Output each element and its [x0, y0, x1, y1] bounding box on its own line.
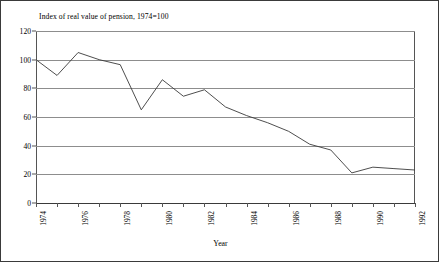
x-tick-mark-1975 [57, 203, 58, 207]
series-line-pension [36, 53, 415, 173]
x-tick-mark-1985 [268, 203, 269, 207]
x-tick-mark-1988 [331, 203, 332, 207]
y-tick-label-40: 40 [23, 141, 31, 150]
x-tick-mark-1980 [162, 203, 163, 207]
y-tick-label-20: 20 [23, 170, 31, 179]
x-tick-label-1982: 1982 [207, 211, 216, 226]
x-tick-mark-1984 [247, 203, 248, 207]
y-tick-label-60: 60 [23, 113, 31, 122]
x-tick-mark-1976 [78, 203, 79, 207]
x-tick-label-1976: 1976 [81, 211, 90, 226]
x-tick-mark-1992 [415, 203, 416, 207]
x-tick-mark-1990 [373, 203, 374, 207]
x-tick-label-1984: 1984 [250, 211, 259, 226]
x-tick-label-1988: 1988 [334, 211, 343, 226]
x-tick-mark-1981 [183, 203, 184, 207]
chart-title: Index of real value of pension, 1974=100 [39, 12, 169, 21]
plot-area: 020406080100120 197419761978198019821984… [36, 31, 415, 203]
x-tick-label-1974: 1974 [39, 211, 48, 226]
x-tick-mark-1991 [394, 203, 395, 207]
chart-figure: Index of real value of pension, 1974=100… [0, 0, 439, 262]
x-tick-mark-1974 [36, 203, 37, 207]
x-tick-mark-1977 [99, 203, 100, 207]
y-tick-label-120: 120 [20, 27, 31, 36]
x-tick-mark-1986 [289, 203, 290, 207]
x-tick-mark-1989 [352, 203, 353, 207]
x-tick-label-1990: 1990 [376, 211, 385, 226]
x-tick-label-1978: 1978 [123, 211, 132, 226]
x-tick-mark-1979 [141, 203, 142, 207]
x-tick-mark-1978 [120, 203, 121, 207]
x-tick-label-1986: 1986 [292, 211, 301, 226]
x-tick-mark-1982 [204, 203, 205, 207]
x-tick-mark-1987 [310, 203, 311, 207]
x-tick-label-1980: 1980 [165, 211, 174, 226]
y-tick-label-100: 100 [20, 55, 31, 64]
x-tick-mark-1983 [226, 203, 227, 207]
y-tick-label-80: 80 [23, 84, 31, 93]
x-tick-label-1992: 1992 [418, 211, 427, 226]
x-axis-title: Year [1, 239, 439, 248]
y-tick-label-0: 0 [27, 199, 31, 208]
series-line-group [36, 31, 415, 203]
